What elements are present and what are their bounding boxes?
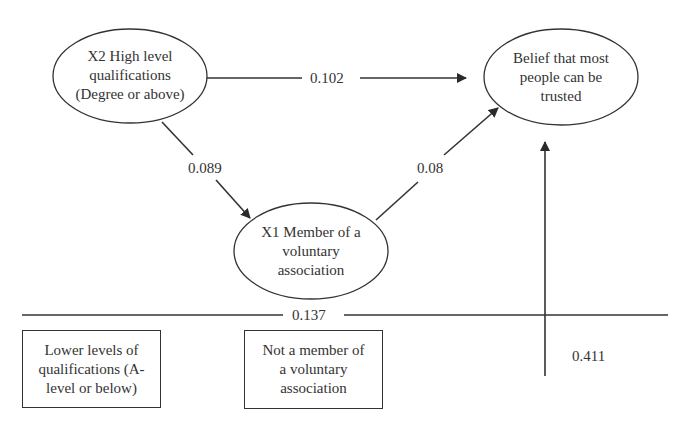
node-x1-line-1: X1 Member of a: [241, 223, 381, 242]
reference-box-not-member: Not a member of a voluntary association: [244, 330, 383, 409]
coef-constant-belief: 0.411: [568, 348, 609, 365]
edge-x1-belief-bottom: [376, 182, 418, 220]
coef-x2-belief: 0.102: [306, 70, 348, 87]
ref-lower-line-3: level or below): [38, 379, 144, 398]
ref-lower-line-2: qualifications (A-: [38, 360, 144, 379]
ref-notmember-line-2: a voluntary: [262, 360, 364, 379]
node-belief-line-1: Belief that most: [491, 49, 631, 68]
node-belief: Belief that most people can be trusted: [491, 49, 631, 106]
node-belief-line-3: trusted: [491, 87, 631, 106]
edge-x2-x1-top: [162, 122, 193, 155]
coef-x1-belief: 0.08: [413, 160, 447, 177]
coef-baseline: 0.137: [288, 307, 330, 324]
coef-x2-x1: 0.089: [184, 160, 226, 177]
ref-notmember-line-1: Not a member of: [262, 341, 364, 360]
node-x2-line-1: X2 High level: [60, 47, 200, 66]
edge-x2-x1-bottom: [216, 180, 250, 218]
node-x1: X1 Member of a voluntary association: [241, 223, 381, 280]
reference-box-lower-qualifications: Lower levels of qualifications (A- level…: [22, 330, 161, 408]
node-belief-line-2: people can be: [491, 68, 631, 87]
node-x1-line-2: voluntary: [241, 242, 381, 261]
ref-notmember-line-3: association: [262, 379, 364, 398]
ref-lower-line-1: Lower levels of: [38, 341, 144, 360]
node-x2-line-3: (Degree or above): [60, 85, 200, 104]
node-x1-line-3: association: [241, 261, 381, 280]
node-x2-line-2: qualifications: [60, 66, 200, 85]
edge-x1-belief-top: [444, 108, 498, 155]
node-x2: X2 High level qualifications (Degree or …: [60, 47, 200, 104]
